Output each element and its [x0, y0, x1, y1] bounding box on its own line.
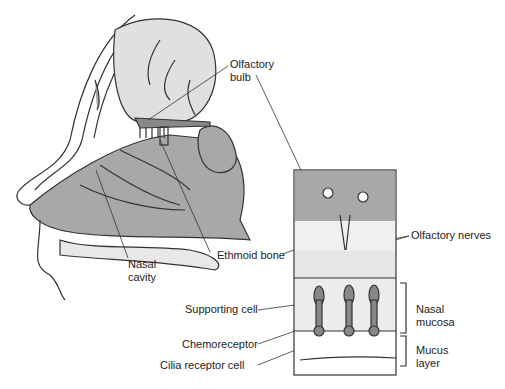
label-mucus-layer: Mucus layer [416, 344, 448, 370]
label-nasal-cavity: Nasal cavity [128, 258, 156, 284]
label-line: Mucus [416, 344, 448, 357]
label-ethmoid-bone: Ethmoid bone [217, 249, 285, 262]
label-line: Olfactory [230, 58, 274, 71]
label-line: layer [416, 357, 448, 370]
label-line: Nasal [416, 303, 455, 316]
label-supporting-cell: Supporting cell [185, 303, 258, 316]
label-nasal-mucosa: Nasal mucosa [416, 303, 455, 329]
label-cilia-receptor-cell: Cilia receptor cell [160, 359, 244, 372]
label-line: Nasal [128, 258, 156, 271]
label-line: bulb [230, 71, 274, 84]
label-olfactory-nerves: Olfactory nerves [411, 229, 491, 242]
label-olfactory-bulb: Olfactory bulb [230, 58, 274, 84]
label-chemoreceptor: Chemoreceptor [182, 338, 258, 351]
label-line: mucosa [416, 316, 455, 329]
detail-inset [294, 170, 406, 375]
label-line: cavity [128, 271, 156, 284]
